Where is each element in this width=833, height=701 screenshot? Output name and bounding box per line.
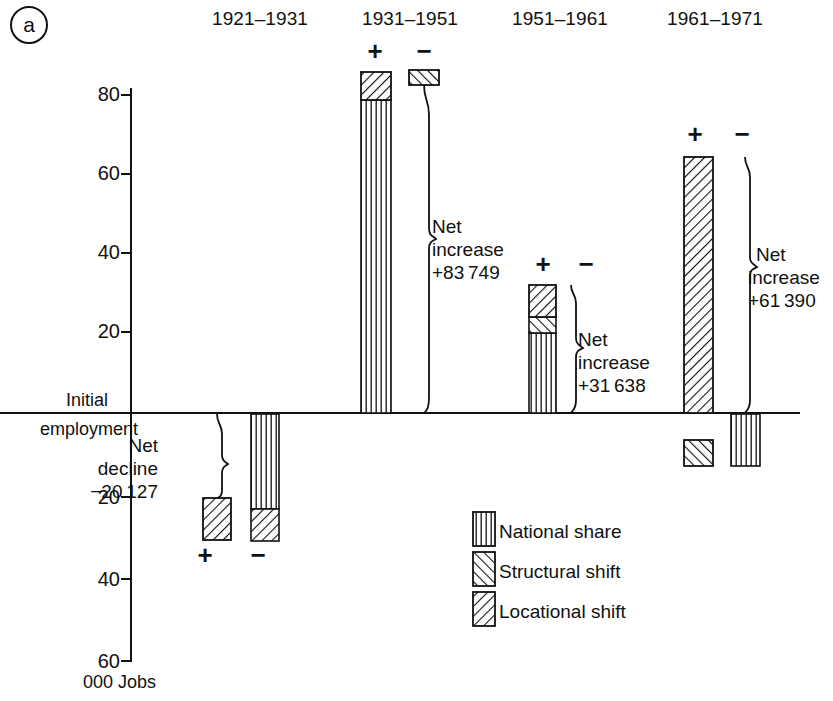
- segment-national-share: [529, 333, 556, 413]
- segment-structural-shift: [409, 70, 439, 85]
- net-brace-1931-1951: [424, 85, 436, 413]
- bar-1951-1961-plus: [529, 285, 556, 413]
- bar-1931-1951-minus: [409, 70, 439, 85]
- segment-national-share: [731, 414, 760, 466]
- segment-national-share: [361, 100, 391, 413]
- legend: [473, 512, 495, 626]
- segment-structural-shift: [684, 440, 713, 466]
- chart-canvas: [0, 0, 833, 701]
- bar-1961-1971-plus: [684, 157, 713, 466]
- axis-spine: [121, 88, 131, 662]
- segment-locational-shift: [203, 498, 231, 540]
- national-share-swatch: [473, 512, 495, 546]
- segment-locational-shift: [684, 157, 713, 413]
- bar-1961-1971-minus: [731, 414, 760, 466]
- net-brace-1951-1961: [571, 285, 583, 413]
- segment-locational-shift: [251, 509, 279, 541]
- structural-shift-swatch: [473, 552, 495, 586]
- bar-1921-1931-plus: [203, 498, 231, 540]
- segment-locational-shift: [361, 72, 391, 100]
- shift-share-chart: a 1921–1931 1931–1951 1951–1961 1961–197…: [0, 0, 833, 701]
- segment-locational-shift: [529, 285, 556, 317]
- net-brace-1921-1931: [217, 414, 228, 498]
- segment-structural-shift: [529, 317, 556, 333]
- bar-1921-1931-minus: [251, 414, 279, 541]
- bar-1931-1951-plus: [361, 72, 391, 413]
- segment-national-share: [251, 414, 279, 509]
- locational-shift-swatch: [473, 592, 495, 626]
- net-brace-1961-1971: [745, 157, 757, 413]
